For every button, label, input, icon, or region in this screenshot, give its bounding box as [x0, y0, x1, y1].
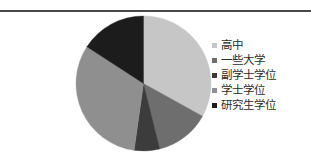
- legend-item-bachelors-degree[interactable]: 学士学位: [212, 83, 308, 98]
- legend-item-associate-degree[interactable]: 副学士学位: [212, 68, 308, 83]
- legend-swatch-icon: [212, 43, 217, 48]
- legend-swatch-icon: [212, 73, 217, 78]
- legend-item-label: 一些大学: [221, 54, 265, 67]
- legend-swatch-icon: [212, 103, 217, 108]
- legend-item-high-school[interactable]: 高中: [212, 38, 308, 53]
- chart-area: 高中 一些大学 副学士学位 学士学位 研究生学位: [0, 12, 311, 161]
- legend-item-label: 研究生学位: [221, 99, 276, 112]
- pie-chart-figure: 高中 一些大学 副学士学位 学士学位 研究生学位: [0, 0, 311, 161]
- legend-swatch-icon: [212, 58, 217, 63]
- legend-item-some-college[interactable]: 一些大学: [212, 53, 308, 68]
- legend-swatch-icon: [212, 88, 217, 93]
- pie-chart-svg: [75, 15, 212, 152]
- pie-slice-group: [76, 16, 211, 151]
- legend-item-label: 副学士学位: [221, 69, 276, 82]
- chart-legend: 高中 一些大学 副学士学位 学士学位 研究生学位: [212, 38, 308, 113]
- legend-item-graduate-degree[interactable]: 研究生学位: [212, 98, 308, 113]
- pie-chart: [75, 15, 212, 152]
- legend-item-label: 高中: [221, 39, 243, 52]
- legend-item-label: 学士学位: [221, 84, 265, 97]
